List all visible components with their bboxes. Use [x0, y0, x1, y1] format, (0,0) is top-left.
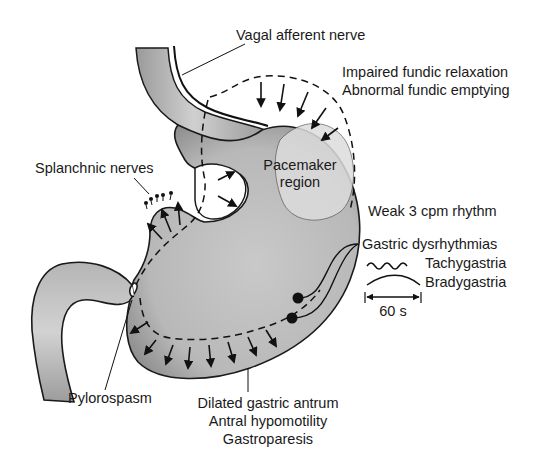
tachygastria-wave-icon — [367, 263, 407, 269]
gastroparesis-label: Gastroparesis — [223, 431, 313, 447]
gastric-dysrhythmias-label: Gastric dysrhythmias — [362, 236, 497, 252]
pylorospasm-leader-line — [105, 300, 132, 390]
stomach-diagram: Pacemaker region Vagal afferent nerve Im… — [0, 0, 554, 455]
pylorospasm-label: Pylorospasm — [68, 390, 152, 406]
splanchnic-nerves-label: Splanchnic nerves — [35, 160, 154, 176]
bradygastria-wave-icon — [367, 275, 420, 285]
splanchnic-leader-line — [134, 178, 149, 194]
bradygastria-label: Bradygastria — [425, 274, 507, 290]
scale-label: 60 s — [379, 303, 406, 319]
fundic-relaxation-label: Impaired fundic relaxation — [342, 64, 508, 80]
scale-bar — [365, 292, 421, 303]
duodenum — [32, 262, 134, 402]
vagal-leader-line — [182, 44, 245, 75]
vagal-afferent-label: Vagal afferent nerve — [236, 27, 365, 43]
antral-hypomotility-label: Antral hypomotility — [209, 413, 328, 429]
pacemaker-label-line2: region — [280, 174, 320, 190]
tachygastria-label: Tachygastria — [425, 255, 507, 271]
pacemaker-label-line1: Pacemaker — [263, 157, 337, 173]
weak-rhythm-label: Weak 3 cpm rhythm — [368, 203, 497, 219]
fundic-emptying-label: Abnormal fundic emptying — [342, 82, 510, 98]
dilated-antrum-label: Dilated gastric antrum — [197, 395, 338, 411]
